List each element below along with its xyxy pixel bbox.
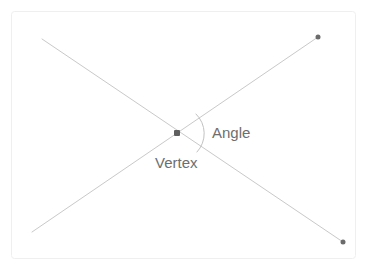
endpoint-upper-right xyxy=(316,35,321,40)
diagram-canvas: Angle Vertex xyxy=(0,0,367,271)
angle-label: Angle xyxy=(212,125,250,140)
vertex-point xyxy=(174,130,180,136)
geometry-diagram-svg xyxy=(0,0,367,271)
endpoint-lower-right xyxy=(341,240,346,245)
vertex-label: Vertex xyxy=(155,155,198,170)
